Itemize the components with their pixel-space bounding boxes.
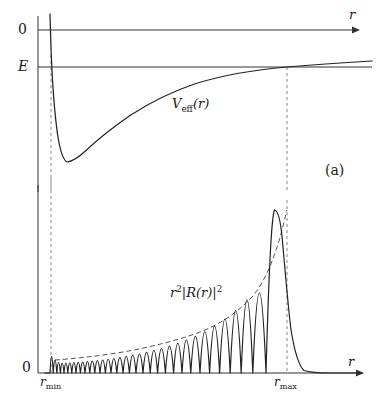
r-axis-label-bottom: r [348, 355, 354, 368]
veff-argument: (r) [193, 96, 209, 111]
zero-tick-label-top: 0 [18, 22, 27, 36]
r-min-subscript: min [46, 381, 62, 391]
effective-potential-label: Veff(r) [172, 97, 209, 113]
physics-figure-panel-a [0, 0, 384, 410]
panel-label: (a) [325, 163, 344, 177]
r-axis-label-top: r [349, 8, 355, 21]
r-max-subscript: max [280, 381, 297, 391]
zero-reference-line [38, 27, 360, 34]
r-max-axis-label: rmax [274, 376, 297, 391]
veff-symbol: V [172, 96, 181, 111]
zero-tick-label-bottom: 0 [22, 360, 31, 374]
radial-body-exponent: 2 [217, 284, 223, 294]
effective-potential-curve [50, 14, 372, 162]
veff-subscript: eff [181, 104, 193, 114]
radial-density-label: r2|R(r)|2 [170, 285, 222, 299]
radial-body: |R(r)| [182, 285, 217, 300]
energy-tick-label: E [18, 59, 28, 73]
lower-panel-radial-density [38, 178, 364, 377]
r-min-axis-label: rmin [40, 376, 61, 391]
